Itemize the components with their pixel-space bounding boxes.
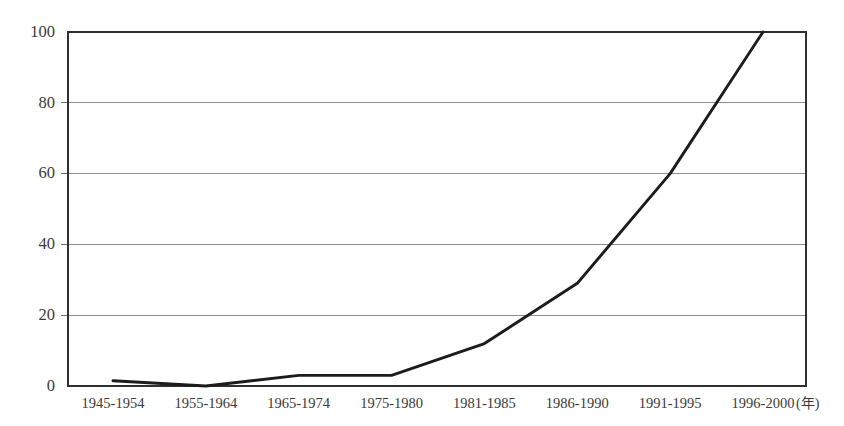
line-chart: 020406080100 1945-19541955-19641965-1974… (0, 0, 844, 426)
chart-figure: 020406080100 1945-19541955-19641965-1974… (0, 0, 844, 426)
y-tick-label-0: 0 (47, 376, 55, 395)
y-tick-label-60: 60 (39, 163, 56, 182)
x-tick-label-1991-1995: 1991-1995 (639, 395, 702, 411)
x-axis-unit-label: (年) (796, 396, 820, 412)
x-tick-label-1965-1974: 1965-1974 (267, 395, 331, 411)
y-tick-label-40: 40 (39, 234, 56, 253)
x-tick-label-1981-1985: 1981-1985 (453, 395, 516, 411)
y-tick-label-100: 100 (30, 22, 55, 41)
y-tick-label-20: 20 (39, 305, 56, 324)
chart-background (0, 0, 844, 426)
x-tick-label-1996-2000: 1996-2000 (732, 395, 795, 411)
y-tick-label-80: 80 (39, 93, 56, 112)
x-tick-label-1955-1964: 1955-1964 (174, 395, 238, 411)
x-tick-label-1975-1980: 1975-1980 (360, 395, 423, 411)
x-tick-label-1986-1990: 1986-1990 (546, 395, 609, 411)
x-tick-label-1945-1954: 1945-1954 (82, 395, 146, 411)
